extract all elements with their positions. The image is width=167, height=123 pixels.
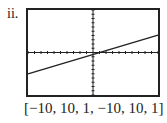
graph-window (26, 8, 160, 97)
problem-label: ii. (7, 6, 18, 22)
window-settings-caption: [−10, 10, 1, −10, 10, 1] (24, 100, 163, 117)
